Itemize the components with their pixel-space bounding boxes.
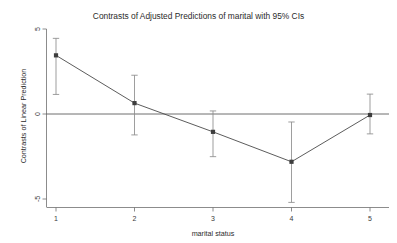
data-point-marker — [368, 113, 372, 117]
y-tick-label: -5 — [34, 196, 41, 202]
x-tick-label: 3 — [211, 215, 215, 222]
x-tick-label: 4 — [290, 215, 294, 222]
y-tick-label: 0 — [34, 112, 41, 116]
x-tick-label: 5 — [368, 215, 372, 222]
data-point-marker — [289, 160, 293, 164]
x-tick-label: 1 — [54, 215, 58, 222]
contrasts-margins-plot: Contrasts of Adjusted Predictions of mar… — [0, 0, 397, 243]
data-point-marker — [211, 130, 215, 134]
y-axis-title: Contrasts of Linear Prediction — [19, 69, 28, 164]
plot-layer: 50-512345 — [34, 27, 389, 222]
data-point-marker — [132, 101, 136, 105]
x-tick-label: 2 — [133, 215, 137, 222]
chart-title: Contrasts of Adjusted Predictions of mar… — [93, 11, 304, 21]
y-tick-label: 5 — [34, 27, 41, 31]
chart-figure: Contrasts of Adjusted Predictions of mar… — [0, 0, 397, 243]
data-point-marker — [54, 53, 58, 57]
x-axis-title: marital status — [192, 229, 235, 238]
